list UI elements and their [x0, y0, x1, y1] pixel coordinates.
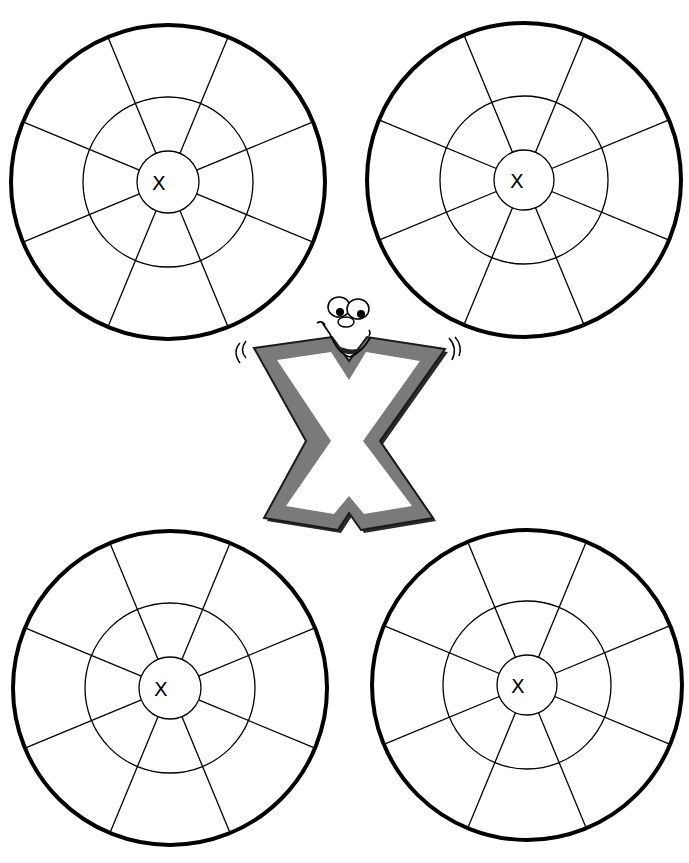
- wheel-spoke: [199, 700, 315, 748]
- wheel-spoke: [197, 194, 313, 242]
- wiggle-left-icon-2: [243, 341, 247, 358]
- wheel-spoke: [23, 194, 139, 242]
- cheek-right-icon: [369, 330, 370, 336]
- wheel-center-letter: X: [510, 169, 524, 193]
- wheel-center-letter: X: [154, 677, 168, 701]
- wheel-spoke: [464, 208, 513, 325]
- wheel-spoke: [552, 192, 669, 241]
- nose-icon: [338, 317, 354, 327]
- wheel-spoke: [197, 122, 313, 170]
- wiggle-left-icon: [236, 343, 240, 363]
- wheel-spoke: [468, 542, 516, 658]
- wheel-center-letter: X: [511, 674, 525, 698]
- wheel-spoke: [182, 717, 230, 833]
- wheel-spoke: [552, 120, 669, 169]
- wheel-spoke: [110, 717, 158, 833]
- wheel-spoke: [468, 713, 516, 829]
- worksheet-page: XXXX: [0, 0, 689, 863]
- wheel-spoke: [555, 626, 671, 674]
- wheel-inner-ring: [139, 657, 201, 719]
- wheel-inner-ring: [497, 655, 557, 715]
- wheel-spoke: [379, 192, 496, 241]
- wiggle-right-icon-2: [455, 337, 460, 356]
- wheel-spoke: [25, 628, 141, 676]
- wheel-spoke: [464, 35, 513, 152]
- wheel-center-letter: X: [152, 171, 166, 195]
- wheel-spoke: [384, 626, 500, 674]
- wheel-inner-ring: [137, 151, 199, 213]
- wheel-spoke: [110, 543, 158, 659]
- wheel-spoke: [108, 211, 156, 327]
- worksheet-art: XXXX: [0, 0, 689, 863]
- word-wheel-top-right: X: [367, 23, 681, 337]
- wheel-spoke: [384, 697, 500, 745]
- wheel-spoke: [180, 37, 228, 153]
- wheel-spoke: [539, 542, 587, 658]
- wheel-spoke: [539, 713, 587, 829]
- wheel-spoke: [23, 122, 139, 170]
- wheel-spoke: [108, 37, 156, 153]
- cheek-left-icon: [317, 322, 325, 325]
- word-wheel-top-left: X: [11, 25, 325, 339]
- word-wheel-bottom-left: X: [13, 531, 327, 845]
- wheel-spoke: [536, 208, 585, 325]
- wheel-spoke: [180, 211, 228, 327]
- wheel-spoke: [379, 120, 496, 169]
- wheel-inner-ring: [494, 150, 554, 210]
- wheel-spoke: [555, 697, 671, 745]
- wheel-spoke: [25, 700, 141, 748]
- wiggle-right-icon: [449, 338, 454, 360]
- wheel-spoke: [536, 35, 585, 152]
- wheel-spoke: [182, 543, 230, 659]
- right-pupil-icon: [357, 310, 365, 318]
- word-wheel-bottom-right: X: [372, 530, 682, 840]
- mascot-letter-x: [236, 297, 460, 533]
- left-pupil-icon: [336, 308, 344, 316]
- wheel-spoke: [199, 628, 315, 676]
